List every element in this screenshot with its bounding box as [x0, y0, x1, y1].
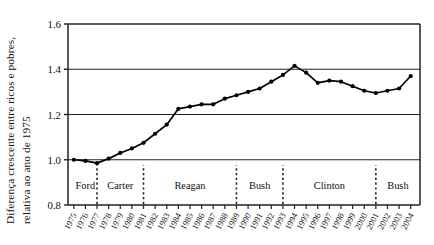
data-point-1979: [118, 151, 122, 155]
era-label-bush-2001: Bush: [387, 180, 409, 191]
y-axis-label-line-1: Diferença crescente entre ricos e pobres…: [4, 18, 16, 224]
data-point-1990: [246, 90, 250, 94]
data-point-1994: [292, 64, 296, 68]
chart-figure: Diferença crescente entre ricos e pobres…: [0, 0, 434, 245]
y-axis-label-line-2: relativa ao ano de 1975: [20, 18, 32, 224]
data-point-2002: [385, 89, 389, 93]
data-point-1983: [165, 123, 169, 127]
era-label-bush-1989: Bush: [249, 180, 271, 191]
x-tick-label-2004: 2004: [399, 211, 416, 231]
data-point-2004: [409, 74, 413, 78]
era-label-reagan-1981: Reagan: [174, 180, 206, 191]
data-point-1988: [223, 97, 227, 101]
data-point-1981: [141, 141, 145, 145]
data-point-2003: [397, 86, 401, 90]
data-point-1984: [176, 107, 180, 111]
y-axis-label: Diferença crescente entre ricos e pobres…: [0, 0, 56, 215]
era-label-carter-1977: Carter: [107, 180, 134, 191]
data-point-1978: [107, 157, 111, 161]
data-point-1996: [316, 81, 320, 85]
data-point-1980: [130, 146, 134, 150]
data-point-1991: [258, 86, 262, 90]
data-point-1977: [95, 161, 99, 165]
data-point-2001: [374, 91, 378, 95]
data-point-1987: [211, 102, 215, 106]
data-point-1975: [72, 158, 76, 162]
era-label-ford-1975: Ford: [76, 180, 96, 191]
data-point-1997: [327, 78, 331, 82]
era-label-clinton-1993: Clinton: [314, 180, 346, 191]
data-point-1985: [188, 104, 192, 108]
data-point-1989: [234, 93, 238, 97]
line-chart-plot: 0.81.01.21.41.61975197619771978197919801…: [0, 0, 434, 245]
data-point-1982: [153, 132, 157, 136]
data-point-1976: [83, 159, 87, 163]
data-point-1986: [199, 102, 203, 106]
data-point-1993: [281, 73, 285, 77]
data-point-1999: [351, 84, 355, 88]
data-point-1995: [304, 71, 308, 75]
data-point-2000: [362, 89, 366, 93]
data-point-1998: [339, 80, 343, 84]
data-point-1992: [269, 80, 273, 84]
